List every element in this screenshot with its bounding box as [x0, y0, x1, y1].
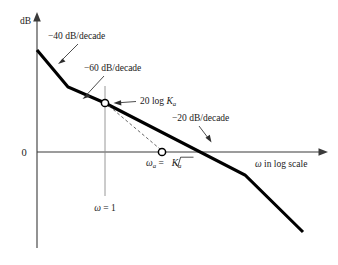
omega-a-equals: = — [156, 158, 166, 168]
bode-plot-figure: dB 0 ω in log scale ω = 1 −40 dB/decade … — [0, 0, 338, 265]
annotation-slope-minus-20: −20 dB/decade — [172, 113, 229, 123]
leader-line-slope-minus-60 — [86, 76, 104, 96]
marker-crossover-point-omega-a — [158, 148, 165, 155]
magnitude-asymptote-curve — [37, 50, 303, 232]
bode-plot-canvas: dB 0 ω in log scale ω = 1 −40 dB/decade … — [0, 0, 338, 265]
annotation-slope-minus-40: −40 dB/decade — [48, 31, 105, 41]
gain-label-k-subscript: a — [173, 100, 177, 107]
gridline-label-omega-value: = 1 — [101, 203, 116, 213]
marker-gain-point-at-omega-one — [101, 99, 108, 106]
y-axis-arrowhead — [33, 12, 41, 22]
gridline-label-omega-equals-one: ω = 1 — [94, 203, 116, 213]
leader-line-slope-minus-20 — [199, 126, 209, 139]
label-omega-a-equals-sqrt-ka: ωa = Ka — [146, 157, 194, 169]
x-axis-label-rest: in log scale — [262, 159, 308, 169]
annotation-gain-20-log-ka: 20 log Ka — [140, 96, 177, 107]
x-axis-arrowhead — [319, 148, 329, 156]
gain-label-prefix: 20 log — [140, 96, 166, 106]
svg-text:ωa = Ka: ωa = Ka — [146, 158, 182, 169]
y-axis-label: dB — [20, 16, 31, 26]
leader-line-slope-minus-40 — [62, 44, 79, 61]
leader-arrowhead-slope-minus-40 — [58, 59, 66, 65]
annotation-slope-minus-60: −60 dB/decade — [84, 63, 141, 73]
leader-arrowhead-gain-20-log-ka — [114, 100, 122, 105]
x-axis-label: ω in log scale — [255, 159, 307, 169]
zero-dB-label: 0 — [21, 147, 26, 158]
